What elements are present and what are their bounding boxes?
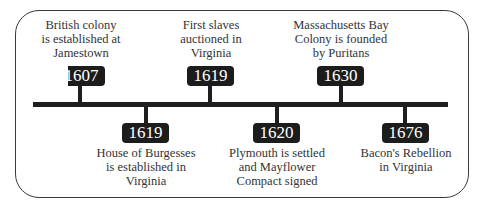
description-line: Massachusetts Bay <box>286 18 396 32</box>
description-line: House of Burgesses <box>91 146 201 160</box>
connector-1676 <box>403 106 407 124</box>
description-line: auctioned in <box>166 32 256 46</box>
description-line: Compact signed <box>222 174 332 188</box>
event-description-1619-burgesses: House of Burgesses is established in Vir… <box>91 146 201 188</box>
connector-1620 <box>275 106 279 124</box>
year-label-1619-slaves: 1619 <box>187 66 234 86</box>
year-label-1619-burgesses: 1619 <box>122 123 169 143</box>
year-label-1607: 1607 <box>68 66 105 86</box>
timeline-bar <box>33 102 448 107</box>
event-description-1676: Bacon's Rebellion in Virginia <box>355 146 457 174</box>
connector-1619-slaves <box>208 86 212 103</box>
description-line: in Virginia <box>355 160 457 174</box>
description-line: is established in <box>91 160 201 174</box>
description-line: Colony is founded <box>286 32 396 46</box>
description-line: British colony <box>30 18 132 32</box>
description-line: Virginia <box>166 46 256 60</box>
event-description-1620: Plymouth is settled and Mayflower Compac… <box>222 146 332 188</box>
event-description-1630: Massachusetts Bay Colony is founded by P… <box>286 18 396 60</box>
description-line: Virginia <box>91 174 201 188</box>
event-description-1619-slaves: First slaves auctioned in Virginia <box>166 18 256 60</box>
year-label-1620: 1620 <box>253 123 300 143</box>
description-line: Jamestown <box>30 46 132 60</box>
connector-1630 <box>339 86 343 103</box>
year-label-1630: 1630 <box>317 66 364 86</box>
year-label-1676: 1676 <box>382 123 429 143</box>
description-line: Bacon's Rebellion <box>355 146 457 160</box>
description-line: is established at <box>30 32 132 46</box>
description-line: Plymouth is settled <box>222 146 332 160</box>
connector-1607 <box>78 86 82 103</box>
event-description-1607: British colony is established at Jamesto… <box>30 18 132 60</box>
connector-1619-burgesses <box>144 106 148 124</box>
description-line: by Puritans <box>286 46 396 60</box>
description-line: and Mayflower <box>222 160 332 174</box>
description-line: First slaves <box>166 18 256 32</box>
